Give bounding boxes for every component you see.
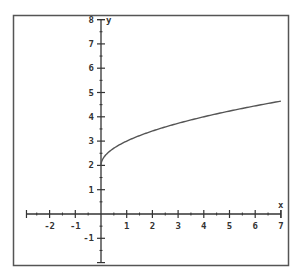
y-axis-label: y xyxy=(106,15,112,25)
x-tick-label: 1 xyxy=(124,221,129,231)
x-tick-label: 6 xyxy=(252,221,257,231)
y-tick-label: 7 xyxy=(89,39,94,49)
tick-labels: -2-11234567-112345678 xyxy=(44,15,283,244)
x-tick-label: 7 xyxy=(278,221,283,231)
y-tick-label: 2 xyxy=(89,160,94,170)
tick-marks xyxy=(37,20,281,251)
y-tick-label: 3 xyxy=(89,136,94,146)
y-tick-label: 6 xyxy=(89,63,94,73)
function-curve xyxy=(101,101,281,165)
x-tick-label: 3 xyxy=(175,221,180,231)
y-tick-label: -1 xyxy=(83,233,94,243)
x-tick-label: 5 xyxy=(227,221,232,231)
y-tick-label: 1 xyxy=(89,185,94,195)
function-plot: -2-11234567-112345678 x y xyxy=(0,0,291,270)
x-tick-label: 4 xyxy=(201,221,207,231)
x-axis-label: x xyxy=(278,200,284,210)
x-tick-label: -1 xyxy=(70,221,81,231)
x-tick-label: -2 xyxy=(44,221,55,231)
x-tick-label: 2 xyxy=(150,221,155,231)
y-tick-label: 5 xyxy=(89,88,94,98)
y-tick-label: 8 xyxy=(89,15,94,25)
y-tick-label: 4 xyxy=(89,112,95,122)
